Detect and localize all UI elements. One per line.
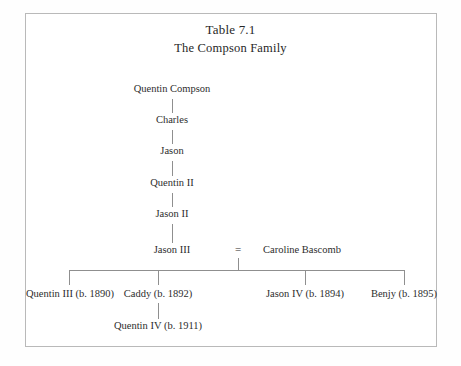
figure-subtitle: The Compson Family [0,41,461,56]
node-caroline-bascomb: Caroline Bascomb [263,244,341,256]
connector-sibling-caddy [158,270,159,285]
connector-jason-ii-jason-iii [172,224,173,243]
node-charles: Charles [156,114,188,126]
node-jason-iv: Jason IV (b. 1894) [266,288,344,300]
node-quentin-iv: Quentin IV (b. 1911) [114,320,202,332]
connector-caddy-quentin-iv [158,303,159,319]
figure-title: Table 7.1 [0,22,461,38]
connector-charles-jason [172,130,173,144]
connector-sibling-jason-iv [305,270,306,285]
node-quentin-compson: Quentin Compson [134,83,211,95]
node-jason-iii: Jason III [154,244,190,256]
connector-sibling-quentin-iii [69,270,70,285]
family-tree-figure: Table 7.1 The Compson Family Quentin Com… [0,0,461,366]
connector-quentin-ii-jason-ii [172,193,173,207]
sibling-bar [69,270,405,271]
node-quentin-iii: Quentin III (b. 1890) [26,288,114,300]
connector-sibling-benjy [404,270,405,285]
connector-jason-quentin-ii [172,161,173,176]
node-jason: Jason [160,145,183,157]
marriage-equals-sign: = [235,243,241,255]
node-quentin-ii: Quentin II [150,177,193,189]
node-jason-ii: Jason II [156,208,189,220]
node-caddy: Caddy (b. 1892) [124,288,193,300]
node-benjy: Benjy (b. 1895) [371,288,437,300]
connector-marriage-to-siblings [238,258,239,270]
connector-quentin-compson-charles [172,99,173,113]
